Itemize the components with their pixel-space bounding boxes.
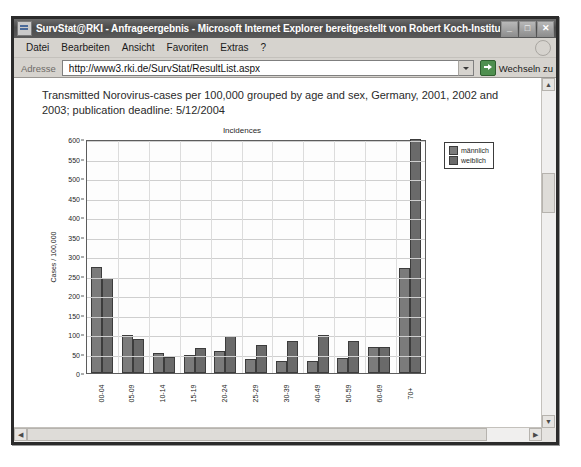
scroll-down-button[interactable]: ▼ bbox=[542, 415, 555, 428]
grid-line-vertical bbox=[365, 141, 366, 373]
bar bbox=[102, 278, 113, 373]
y-tick-mark bbox=[81, 237, 84, 238]
y-tick-label: 550 bbox=[68, 156, 80, 163]
y-tick-mark bbox=[81, 296, 84, 297]
bar bbox=[245, 359, 256, 373]
bar-group bbox=[364, 141, 395, 373]
bar bbox=[337, 358, 348, 373]
bar bbox=[225, 336, 236, 373]
vertical-scroll-thumb[interactable] bbox=[542, 173, 555, 213]
grid-line-vertical bbox=[272, 141, 273, 373]
ie-logo-icon bbox=[535, 40, 551, 56]
y-tick-mark bbox=[81, 198, 84, 199]
x-axis: 00-0405-0910-1415-1920-2425-2930-3940-49… bbox=[86, 375, 426, 421]
grid-line bbox=[87, 356, 425, 357]
ie-document-icon bbox=[17, 21, 32, 36]
grid-line bbox=[87, 258, 425, 259]
bar-group bbox=[148, 141, 179, 373]
address-input-value: http://www3.rki.de/SurvStat/ResultList.a… bbox=[69, 63, 260, 74]
chevron-down-icon[interactable] bbox=[458, 60, 474, 76]
y-tick-mark bbox=[81, 179, 84, 180]
y-tick-label: 150 bbox=[68, 312, 80, 319]
browser-window: SurvStat@RKI - Anfrageergebnis - Microso… bbox=[11, 16, 559, 445]
address-input[interactable]: http://www3.rki.de/SurvStat/ResultList.a… bbox=[62, 60, 458, 76]
horizontal-scrollbar[interactable]: ◀ ▶ bbox=[14, 427, 542, 442]
menu-item-favoriten[interactable]: Favoriten bbox=[161, 41, 215, 54]
legend-label-maennlich: männlich bbox=[461, 147, 489, 154]
x-tick: 25-29 bbox=[241, 375, 272, 421]
x-tick-label: 25-29 bbox=[252, 385, 259, 403]
bar bbox=[184, 355, 195, 373]
bar bbox=[368, 347, 379, 373]
plot-area bbox=[86, 140, 426, 374]
bar bbox=[307, 361, 318, 373]
x-tick: 30-39 bbox=[271, 375, 302, 421]
browser-content: Transmitted Norovirus-cases per 100,000 … bbox=[14, 77, 556, 442]
bar bbox=[164, 357, 175, 373]
menu-item-extras[interactable]: Extras bbox=[214, 41, 254, 54]
y-tick-mark bbox=[81, 335, 84, 336]
bar bbox=[256, 345, 267, 373]
x-tick-label: 40-49 bbox=[314, 385, 321, 403]
x-tick: 70+ bbox=[395, 375, 426, 421]
y-tick-label: 500 bbox=[68, 176, 80, 183]
address-bar: Adresse http://www3.rki.de/SurvStat/Resu… bbox=[14, 58, 556, 79]
menu-item-datei[interactable]: Datei bbox=[20, 41, 55, 54]
y-axis: Cases / 100,000 050100150200250300350400… bbox=[40, 140, 84, 374]
scroll-left-button[interactable]: ◀ bbox=[14, 428, 27, 441]
bar-group bbox=[210, 141, 241, 373]
x-tick: 20-24 bbox=[210, 375, 241, 421]
menu-item-ansicht[interactable]: Ansicht bbox=[116, 41, 161, 54]
menu-item-bearbeiten[interactable]: Bearbeiten bbox=[55, 41, 115, 54]
go-button-label: Wechseln zu bbox=[499, 63, 553, 74]
y-tick-label: 0 bbox=[76, 371, 80, 378]
bar-groups bbox=[87, 141, 425, 373]
x-tick: 50-59 bbox=[333, 375, 364, 421]
x-tick: 15-19 bbox=[179, 375, 210, 421]
x-tick: 60-69 bbox=[364, 375, 395, 421]
x-tick-label: 05-09 bbox=[129, 385, 136, 403]
scroll-right-button[interactable]: ▶ bbox=[529, 428, 542, 441]
bar bbox=[379, 347, 390, 373]
grid-line bbox=[87, 278, 425, 279]
window-title: SurvStat@RKI - Anfrageergebnis - Microso… bbox=[36, 23, 500, 34]
close-icon: ✕ bbox=[538, 22, 553, 34]
bar-group bbox=[394, 141, 425, 373]
bar-group bbox=[241, 141, 272, 373]
x-tick: 10-14 bbox=[148, 375, 179, 421]
legend-swatch-maennlich bbox=[449, 146, 458, 155]
grid-line-vertical bbox=[242, 141, 243, 373]
y-tick-label: 250 bbox=[68, 273, 80, 280]
menu-bar: Datei Bearbeiten Ansicht Favoriten Extra… bbox=[14, 38, 556, 58]
scrollbar-corner bbox=[542, 428, 556, 442]
menu-item-help[interactable]: ? bbox=[255, 41, 273, 54]
y-tick-label: 100 bbox=[68, 332, 80, 339]
bar bbox=[195, 348, 206, 373]
maximize-button[interactable]: □ bbox=[519, 21, 536, 37]
grid-line bbox=[87, 161, 425, 162]
vertical-scrollbar[interactable]: ▲ ▼ bbox=[541, 78, 556, 428]
bar bbox=[214, 351, 225, 373]
grid-line-vertical bbox=[303, 141, 304, 373]
x-tick-label: 10-14 bbox=[160, 385, 167, 403]
y-tick-mark bbox=[81, 374, 84, 375]
scroll-up-button[interactable]: ▲ bbox=[542, 78, 555, 91]
close-button[interactable]: ✕ bbox=[537, 21, 554, 37]
grid-line-vertical bbox=[149, 141, 150, 373]
go-button[interactable]: Wechseln zu bbox=[480, 60, 553, 76]
minimize-button[interactable]: _ bbox=[501, 21, 518, 37]
horizontal-scroll-thumb[interactable] bbox=[27, 428, 487, 441]
bar bbox=[91, 267, 102, 373]
bar-group bbox=[179, 141, 210, 373]
bar bbox=[410, 139, 421, 373]
chart-legend: männlich weiblich bbox=[444, 142, 494, 169]
legend-item-weiblich: weiblich bbox=[449, 156, 489, 165]
legend-item-maennlich: männlich bbox=[449, 146, 489, 155]
grid-line bbox=[87, 219, 425, 220]
bar bbox=[287, 341, 298, 373]
bar-group bbox=[302, 141, 333, 373]
y-tick-label: 300 bbox=[68, 254, 80, 261]
legend-label-weiblich: weiblich bbox=[461, 157, 486, 164]
x-tick: 00-04 bbox=[86, 375, 117, 421]
y-tick-mark bbox=[81, 257, 84, 258]
